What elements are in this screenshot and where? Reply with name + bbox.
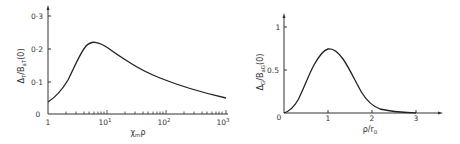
right-xtick-3: 3 — [414, 114, 419, 123]
left-ytick-0: 0 — [36, 110, 41, 119]
figure: 0 0·1 0·2 0·3 — [0, 0, 460, 144]
right-x-axis-label: ρ/r0 — [363, 125, 378, 135]
right-x-axis-arrow-icon — [438, 112, 443, 115]
left-y-axis-label: ΔT/BaT(0) — [17, 48, 27, 83]
right-y-axis-label: ΔG/BaG(0) — [256, 54, 266, 91]
left-xtick-0: 1 — [46, 118, 51, 127]
left-xtick-1: 101 — [98, 117, 111, 127]
right-ytick-0: 0 — [277, 113, 282, 122]
left-ytick-2: 0·2 — [31, 45, 43, 54]
right-chart: 0 0.5 1 1 2 3 ρ/r0 ΔG/BaG(0) — [256, 13, 443, 135]
left-x-ticks — [66, 110, 226, 114]
left-xtick-2: 102 — [157, 117, 170, 127]
right-xtick-1: 1 — [326, 114, 331, 123]
left-ytick-1: 0·1 — [31, 78, 43, 87]
right-ytick-2: 1 — [276, 23, 281, 32]
left-xtick-3: 103 — [216, 117, 230, 127]
right-ytick-1: 0.5 — [267, 66, 279, 75]
left-y-axis-arrow-icon — [47, 5, 50, 10]
left-curve — [48, 42, 226, 102]
left-chart: 0 0·1 0·2 0·3 — [17, 5, 230, 138]
left-x-axis-label: χmρ — [130, 128, 145, 138]
left-ytick-3: 0·3 — [31, 12, 43, 21]
right-xtick-2: 2 — [370, 114, 375, 123]
right-y-axis-arrow-icon — [283, 13, 286, 18]
right-curve — [284, 49, 416, 113]
